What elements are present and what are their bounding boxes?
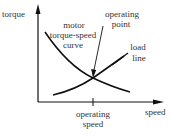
motor-curve-label-line3: curve [58, 40, 88, 50]
operating-speed-label-line2: speed [76, 119, 110, 129]
operating-point-label-line1: operating [100, 9, 144, 19]
operating-point-label-line2: point [106, 19, 136, 29]
x-axis-arrowhead-icon [153, 100, 164, 105]
load-line-leader [112, 53, 128, 65]
motor-curve-label-line1: motor [60, 20, 88, 30]
load-line-label-line2: line [128, 53, 150, 63]
motor-curve-label-line2: torque-speed [45, 30, 101, 40]
load-line-label-line1: load [126, 42, 150, 52]
y-axis-label: torque [2, 9, 25, 19]
operating-speed-label-line1: operating [70, 109, 116, 119]
y-axis-arrowhead-icon [36, 4, 41, 14]
x-axis-label: speed [145, 107, 166, 117]
